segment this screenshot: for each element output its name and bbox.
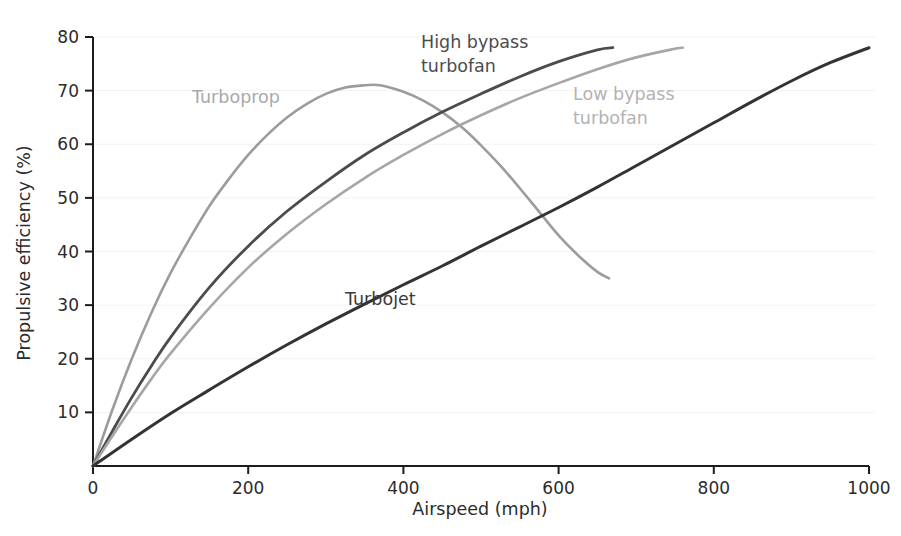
x-tick-label-0: 0 bbox=[88, 478, 99, 498]
y-tick-label-80: 80 bbox=[57, 27, 79, 47]
data-series-curves bbox=[93, 48, 869, 466]
x-axis-title: Airspeed (mph) bbox=[412, 499, 547, 519]
y-tick-label-40: 40 bbox=[57, 242, 79, 262]
y-tick-labels: 1020304050607080 bbox=[57, 27, 79, 422]
x-tick-label-1000: 1000 bbox=[847, 478, 890, 498]
series-label-high-bypass-turbofan-line2: turbofan bbox=[421, 56, 496, 76]
propulsive-efficiency-chart: 02004006008001000 1020304050607080 Turbo… bbox=[0, 0, 901, 536]
x-tick-label-600: 600 bbox=[542, 478, 574, 498]
series-annotations: TurbopropHigh bypassturbofanLow bypasstu… bbox=[191, 32, 675, 309]
y-tick-label-20: 20 bbox=[57, 349, 79, 369]
series-label-high-bypass-turbofan-line1: High bypass bbox=[421, 32, 528, 52]
y-tick-label-60: 60 bbox=[57, 134, 79, 154]
x-tick-label-200: 200 bbox=[232, 478, 264, 498]
y-tick-label-10: 10 bbox=[57, 402, 79, 422]
y-tick-label-70: 70 bbox=[57, 81, 79, 101]
y-axis-title: Propulsive efficiency (%) bbox=[14, 145, 34, 360]
curve-turboprop bbox=[93, 85, 609, 466]
y-tick-label-50: 50 bbox=[57, 188, 79, 208]
y-tick-label-30: 30 bbox=[57, 295, 79, 315]
chart-svg: 02004006008001000 1020304050607080 Turbo… bbox=[0, 0, 901, 536]
series-label-turbojet: Turbojet bbox=[344, 289, 416, 309]
x-tick-labels: 02004006008001000 bbox=[88, 478, 891, 498]
curve-turbojet bbox=[93, 48, 869, 466]
series-label-turboprop: Turboprop bbox=[191, 87, 280, 107]
x-tick-label-800: 800 bbox=[698, 478, 730, 498]
series-label-low-bypass-turbofan-line2: turbofan bbox=[573, 108, 648, 128]
x-tick-label-400: 400 bbox=[387, 478, 419, 498]
curve-high-bypass-turbofan bbox=[93, 48, 613, 466]
series-label-low-bypass-turbofan-line1: Low bypass bbox=[573, 84, 675, 104]
